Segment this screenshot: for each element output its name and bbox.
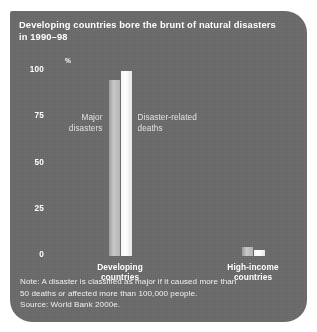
series-label-disaster-related-deaths: Disaster-related deaths xyxy=(138,113,218,134)
bar-group-high-income-countries xyxy=(242,70,265,256)
y-axis-tick-0: 0 xyxy=(10,251,44,259)
chart-figure: Developing countries bore the brunt of n… xyxy=(0,0,317,332)
bar-high-income-major-disasters[interactable] xyxy=(242,247,253,256)
y-axis-tick-25: 25 xyxy=(10,205,44,213)
y-axis-tick-100: 100 xyxy=(10,66,44,74)
chart-title: Developing countries bore the brunt of n… xyxy=(19,19,287,43)
footnote-source: Source: World Bank 2000e. xyxy=(20,299,292,311)
y-axis-tick-50: 50 xyxy=(10,159,44,167)
y-axis-unit-label: % xyxy=(65,57,71,64)
bar-developing-major-disasters[interactable] xyxy=(109,80,120,256)
bar-high-income-disaster-related-deaths[interactable] xyxy=(254,250,265,256)
bar-developing-disaster-related-deaths[interactable] xyxy=(121,71,132,256)
bar-group-developing-countries xyxy=(109,70,132,256)
y-axis-tick-75: 75 xyxy=(10,112,44,120)
footnote-note: Note: A disaster is classified as major … xyxy=(20,276,292,299)
series-label-major-disasters: Major disasters xyxy=(49,113,103,134)
footnote-block: Note: A disaster is classified as major … xyxy=(20,276,292,311)
